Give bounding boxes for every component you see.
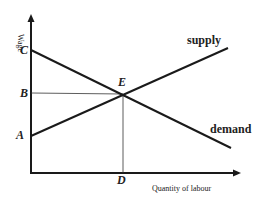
supply-curve bbox=[31, 48, 228, 136]
labour-market-diagram: Wage C B A E D supply demand Quantity of… bbox=[0, 0, 265, 207]
demand-label: demand bbox=[210, 122, 252, 136]
supply-label: supply bbox=[187, 33, 221, 47]
point-e-label: E bbox=[117, 75, 126, 89]
demand-curve bbox=[31, 50, 231, 148]
point-d-label: D bbox=[116, 173, 126, 187]
point-b-label: B bbox=[19, 86, 28, 100]
y-axis-arrow-icon bbox=[28, 14, 35, 22]
x-axis-arrow-icon bbox=[233, 170, 241, 177]
wage-guide-line bbox=[31, 93, 123, 94]
x-axis-label: Quantity of labour bbox=[152, 184, 211, 193]
point-a-label: A bbox=[15, 128, 24, 142]
point-c-label: C bbox=[20, 43, 29, 57]
